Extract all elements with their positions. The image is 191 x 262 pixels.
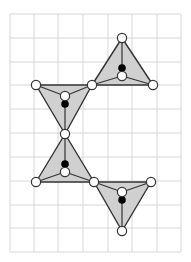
filled-atom-icon (118, 196, 126, 204)
open-atom-icon (60, 129, 69, 138)
open-atom-icon (117, 226, 126, 235)
open-atom-icon (31, 80, 40, 89)
filled-atom-icon (61, 160, 69, 168)
open-atom-icon (60, 167, 69, 176)
open-atom-icon (117, 33, 126, 42)
open-atom-icon (89, 177, 98, 186)
grid (10, 14, 181, 252)
filled-atom-icon (61, 100, 69, 108)
tetrahedra-diagram (0, 0, 191, 262)
filled-atom-icon (118, 64, 126, 72)
open-atom-icon (117, 71, 126, 80)
open-atom-icon (87, 80, 96, 89)
open-atom-icon (146, 177, 155, 186)
open-atom-icon (31, 177, 40, 186)
open-atom-icon (60, 91, 69, 100)
open-atom-icon (117, 187, 126, 196)
open-atom-icon (148, 80, 157, 89)
